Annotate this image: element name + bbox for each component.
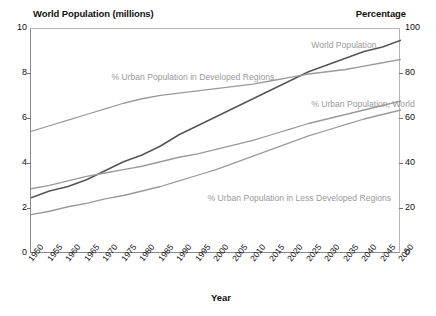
series-label: World Population xyxy=(311,40,376,50)
right-y-axis: 020406080100 xyxy=(405,0,433,316)
chart-figure: World Population (millions) Percentage 0… xyxy=(0,0,436,316)
left-tickmark xyxy=(27,118,31,119)
x-axis-title: Year xyxy=(0,292,436,303)
series-line xyxy=(31,40,401,198)
left-y-tick-10: 10 xyxy=(5,22,27,32)
right-y-tick-80: 80 xyxy=(405,67,429,77)
left-axis-title: World Population (millions) xyxy=(33,8,154,19)
right-tickmark xyxy=(399,163,403,164)
right-axis-title: Percentage xyxy=(356,8,406,19)
left-tickmark xyxy=(27,73,31,74)
left-y-tick-4: 4 xyxy=(5,157,27,167)
series-label: % Urban Population, World xyxy=(311,99,415,109)
left-y-axis: 0246810 xyxy=(3,0,27,316)
series-lines xyxy=(31,29,401,254)
right-y-tick-60: 60 xyxy=(405,112,429,122)
left-y-tick-0: 0 xyxy=(5,247,27,257)
left-y-tick-2: 2 xyxy=(5,202,27,212)
right-y-tick-100: 100 xyxy=(405,22,429,32)
left-tickmark xyxy=(27,163,31,164)
right-y-tick-20: 20 xyxy=(405,202,429,212)
series-label: % Urban Population in Developed Regions xyxy=(111,72,274,82)
series-label: % Urban Population in Less Developed Reg… xyxy=(208,193,391,203)
left-y-tick-8: 8 xyxy=(5,67,27,77)
right-tickmark xyxy=(399,73,403,74)
right-tickmark xyxy=(399,118,403,119)
left-tickmark xyxy=(27,208,31,209)
right-y-tick-40: 40 xyxy=(405,157,429,167)
series-line xyxy=(31,59,401,131)
plot-area xyxy=(30,28,400,253)
x-axis-title-text: Year xyxy=(211,292,231,303)
left-y-tick-6: 6 xyxy=(5,112,27,122)
right-tickmark xyxy=(399,208,403,209)
